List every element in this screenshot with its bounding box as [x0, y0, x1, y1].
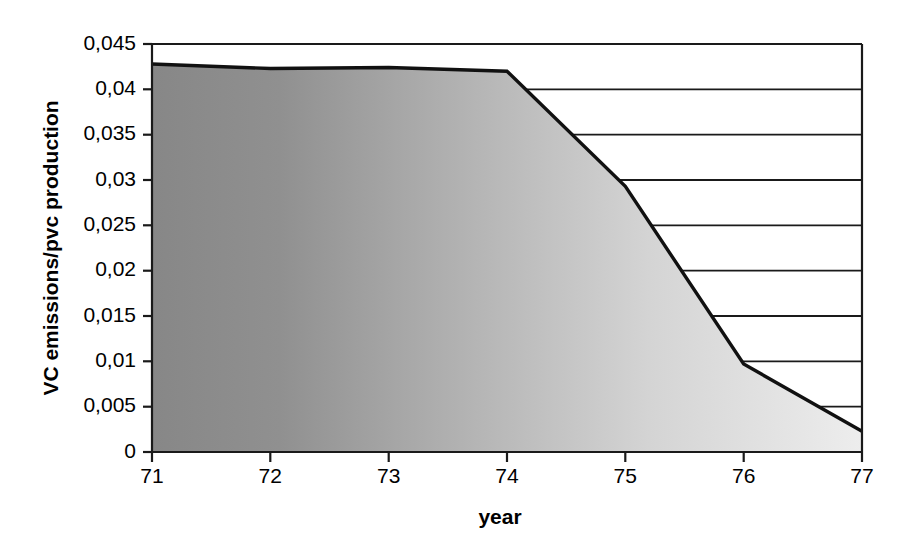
x-tick-label-75: 75 — [614, 464, 637, 487]
y-tick-label-004: 0,04 — [95, 76, 136, 99]
chart-figure: 0,045 0,04 0,035 0,03 0,025 0,02 0,015 0… — [0, 0, 914, 555]
y-tick-label-0035: 0,035 — [83, 121, 136, 144]
y-axis-title: VC emissions/pvc production — [39, 100, 62, 395]
y-tick-labels: 0,045 0,04 0,035 0,03 0,025 0,02 0,015 0… — [83, 31, 136, 462]
y-tick-label-001: 0,01 — [95, 348, 136, 371]
x-tick-label-72: 72 — [259, 464, 282, 487]
y-tick-marks — [143, 44, 152, 452]
x-tick-label-76: 76 — [732, 464, 755, 487]
y-tick-label-002: 0,02 — [95, 257, 136, 280]
x-tick-label-74: 74 — [495, 464, 519, 487]
y-tick-label-0005: 0,005 — [83, 393, 136, 416]
x-tick-labels: 71 72 73 74 75 76 77 — [140, 464, 873, 487]
y-tick-label-0025: 0,025 — [83, 212, 136, 235]
x-axis-title: year — [478, 505, 521, 528]
y-tick-label-0015: 0,015 — [83, 303, 136, 326]
area-chart: 0,045 0,04 0,035 0,03 0,025 0,02 0,015 0… — [0, 0, 914, 555]
y-tick-label-0: 0 — [124, 439, 136, 462]
y-tick-label-0045: 0,045 — [83, 31, 136, 54]
x-tick-label-73: 73 — [377, 464, 400, 487]
x-tick-label-71: 71 — [140, 464, 163, 487]
x-tick-marks — [152, 452, 862, 462]
x-tick-label-77: 77 — [850, 464, 873, 487]
y-tick-label-003: 0,03 — [95, 167, 136, 190]
